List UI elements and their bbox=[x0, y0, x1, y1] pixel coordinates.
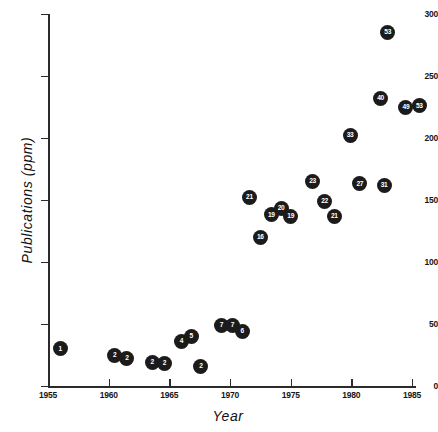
y-tick-label: 150 bbox=[404, 196, 438, 205]
y-tick bbox=[41, 14, 49, 15]
data-point: 27 bbox=[352, 176, 367, 191]
data-point: 49 bbox=[398, 100, 413, 115]
y-tick bbox=[41, 76, 49, 77]
y-tick bbox=[41, 262, 49, 263]
data-point: 40 bbox=[373, 91, 388, 106]
x-tick-label: 1955 bbox=[26, 391, 70, 400]
x-tick-label: 1985 bbox=[390, 391, 434, 400]
y-axis-title: Publications (ppm) bbox=[19, 105, 35, 295]
data-point: 2 bbox=[157, 356, 172, 371]
x-tick-label: 1970 bbox=[208, 391, 252, 400]
x-tick bbox=[412, 379, 413, 387]
data-point: 16 bbox=[253, 230, 268, 245]
data-point: 2 bbox=[119, 351, 134, 366]
x-tick-label: 1980 bbox=[329, 391, 373, 400]
x-tick bbox=[169, 379, 170, 387]
data-point: 33 bbox=[343, 128, 358, 143]
data-point: 19 bbox=[283, 209, 298, 224]
x-axis-title: Year bbox=[148, 408, 308, 424]
x-axis-line bbox=[48, 386, 416, 388]
x-tick bbox=[230, 379, 231, 387]
data-point: 53 bbox=[380, 25, 395, 40]
data-point: 21 bbox=[242, 190, 257, 205]
y-tick bbox=[41, 138, 49, 139]
y-tick-label: 200 bbox=[404, 134, 438, 143]
y-tick bbox=[41, 200, 49, 201]
data-point: 31 bbox=[377, 178, 392, 193]
data-point: 6 bbox=[235, 324, 250, 339]
x-tick-label: 1965 bbox=[147, 391, 191, 400]
x-tick bbox=[351, 379, 352, 387]
data-point: 22 bbox=[317, 194, 332, 209]
x-tick-label: 1975 bbox=[269, 391, 313, 400]
y-tick-label: 250 bbox=[404, 72, 438, 81]
y-tick-label: 50 bbox=[404, 320, 438, 329]
data-point: 1 bbox=[53, 341, 68, 356]
x-tick bbox=[291, 379, 292, 387]
scatter-plot: 050100150200250300 195519601965197019751… bbox=[0, 0, 438, 432]
x-tick bbox=[48, 379, 49, 387]
y-tick bbox=[41, 324, 49, 325]
data-point: 53 bbox=[412, 98, 427, 113]
y-tick-label: 300 bbox=[404, 10, 438, 19]
y-tick-label: 100 bbox=[404, 258, 438, 267]
data-point: 5 bbox=[184, 329, 199, 344]
data-point: 23 bbox=[305, 174, 320, 189]
data-point: 2 bbox=[193, 359, 208, 374]
x-tick bbox=[109, 379, 110, 387]
data-point: 21 bbox=[327, 209, 342, 224]
x-tick-label: 1960 bbox=[87, 391, 131, 400]
